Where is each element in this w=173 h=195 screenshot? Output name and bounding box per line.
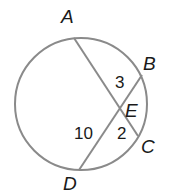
diagram-canvas: A B E C D 3 10 2 — [0, 0, 173, 195]
length-label-de: 10 — [74, 124, 93, 143]
chord-ac — [74, 38, 138, 136]
length-label-be: 3 — [115, 73, 124, 92]
point-label-a: A — [60, 6, 74, 27]
point-label-d: D — [63, 173, 77, 194]
circle-chords-diagram: A B E C D 3 10 2 — [0, 0, 173, 195]
chord-bd — [79, 75, 142, 170]
length-label-ce: 2 — [117, 124, 126, 143]
point-label-e: E — [125, 100, 138, 121]
point-label-c: C — [141, 136, 155, 157]
point-label-b: B — [143, 53, 156, 74]
